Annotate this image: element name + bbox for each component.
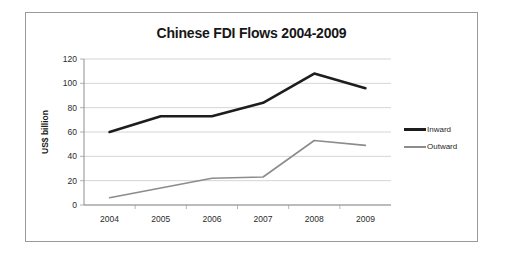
svg-text:2004: 2004 (100, 214, 119, 224)
svg-text:2009: 2009 (356, 214, 375, 224)
svg-text:0: 0 (72, 200, 77, 210)
svg-text:US$ billion: US$ billion (40, 110, 50, 154)
svg-text:60: 60 (68, 127, 78, 137)
chart-legend: Inward Outward (404, 121, 484, 155)
x-axis-ticks: 200420052006200720082009 (100, 205, 375, 224)
svg-text:100: 100 (63, 78, 77, 88)
gridlines (84, 59, 391, 205)
legend-label-outward: Outward (426, 142, 457, 151)
legend-label-inward: Inward (426, 125, 451, 134)
y-axis-title: US$ billion (40, 110, 50, 154)
legend-item-outward: Outward (404, 138, 484, 155)
svg-text:2007: 2007 (254, 214, 273, 224)
svg-text:2006: 2006 (202, 214, 221, 224)
data-series (110, 74, 366, 198)
legend-line-icon-inward (404, 128, 426, 131)
chart-frame: Chinese FDI Flows 2004-2009 020406080100… (25, 12, 478, 242)
legend-line-icon-outward (404, 146, 426, 148)
svg-text:120: 120 (63, 54, 77, 64)
svg-text:2008: 2008 (305, 214, 324, 224)
svg-text:80: 80 (68, 103, 78, 113)
svg-text:40: 40 (68, 151, 78, 161)
svg-text:2005: 2005 (151, 214, 170, 224)
legend-item-inward: Inward (404, 121, 484, 138)
y-axis-ticks: 020406080100120 (63, 54, 84, 210)
svg-text:20: 20 (68, 176, 78, 186)
